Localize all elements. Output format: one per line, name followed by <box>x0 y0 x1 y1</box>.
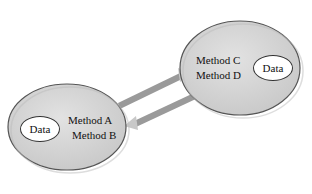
object-right-method-d: Method D <box>196 68 241 82</box>
object-right-data: Data <box>253 55 293 81</box>
object-left-method-a: Method A <box>68 113 112 127</box>
diagram-canvas <box>0 0 312 194</box>
object-left-data: Data <box>20 116 60 142</box>
object-right-method-c: Method C <box>196 53 240 67</box>
object-left-method-b: Method B <box>72 128 116 142</box>
